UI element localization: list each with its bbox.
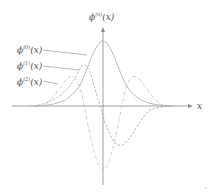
- corner-mark: [205, 187, 207, 189]
- x-axis-label: x: [197, 101, 202, 111]
- y-axis-arrow-icon: [101, 27, 105, 32]
- y-axis-label: ϕ(n)(x): [89, 11, 115, 22]
- label-phi0: ϕ(0)(x): [17, 44, 43, 55]
- x-axis-arrow-icon: [188, 104, 193, 108]
- leader-phi0: [43, 50, 87, 55]
- label-phi2: ϕ(2)(x): [17, 76, 43, 87]
- curve-phi1: [30, 65, 175, 145]
- leader-phi2: [43, 81, 58, 84]
- derivative-plot: ϕ(n)(x) x ϕ(0)(x) ϕ(1)(x) ϕ(2)(x): [0, 0, 216, 195]
- leader-phi1: [43, 66, 79, 70]
- label-phi1: ϕ(1)(x): [17, 60, 43, 71]
